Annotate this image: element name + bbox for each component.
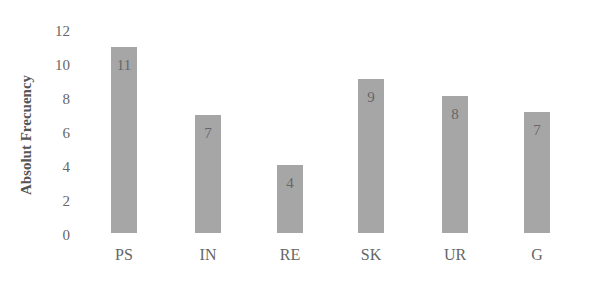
y-tick: 6 [34, 125, 70, 142]
x-tick: RE [260, 246, 320, 264]
bar-value-label: 7 [524, 122, 550, 139]
y-tick: 10 [34, 57, 70, 74]
bar-value-label: 9 [358, 89, 384, 106]
bar-re: 4 [277, 165, 303, 233]
bar-value-label: 8 [442, 106, 468, 123]
bar-in: 7 [195, 115, 221, 233]
y-tick: 0 [34, 227, 70, 244]
bar-value-label: 11 [111, 57, 137, 74]
y-tick: 2 [34, 193, 70, 210]
y-tick: 4 [34, 159, 70, 176]
bar-value-label: 4 [277, 175, 303, 192]
bar-sk: 9 [358, 79, 384, 233]
x-tick: UR [425, 246, 485, 264]
x-tick: PS [94, 246, 154, 264]
x-tick: G [507, 246, 567, 264]
y-tick: 12 [34, 23, 70, 40]
y-axis-label: Absolut Frecuency [18, 75, 35, 195]
bar-g: 7 [524, 112, 550, 233]
bar-ps: 11 [111, 47, 137, 233]
x-tick: IN [178, 246, 238, 264]
bar-value-label: 7 [195, 125, 221, 142]
y-tick: 8 [34, 91, 70, 108]
x-tick: SK [341, 246, 401, 264]
bar-ur: 8 [442, 96, 468, 233]
